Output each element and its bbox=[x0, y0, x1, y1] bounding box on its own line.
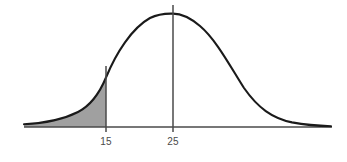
x-axis-tick-label-15: 15 bbox=[86, 137, 126, 147]
normal-distribution-curve bbox=[24, 14, 331, 127]
x-axis-tick-label-25: 25 bbox=[153, 137, 193, 147]
left-tail-shaded-area bbox=[24, 78, 106, 128]
normal-distribution-figure: 15 25 bbox=[0, 0, 347, 162]
